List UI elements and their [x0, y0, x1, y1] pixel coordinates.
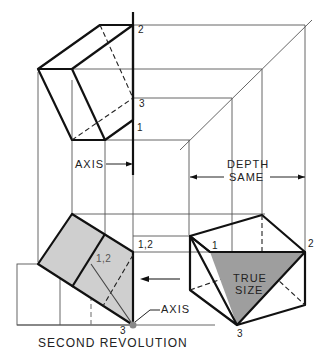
top-view	[38, 12, 133, 175]
front-point-3: 3	[120, 325, 126, 336]
side-point-2: 2	[308, 238, 314, 249]
revolution-diagram: 2 3 1 AXIS DEPTH SAME 1,2 1,2 3 AXIS	[0, 0, 322, 359]
top-point-2: 2	[138, 24, 144, 35]
front-view	[17, 214, 137, 329]
top-point-1: 1	[137, 122, 143, 133]
front-point-1-2-outer: 1,2	[138, 239, 153, 250]
size-label: SIZE	[235, 284, 263, 296]
same-label: SAME	[229, 171, 264, 183]
true-label: TRUE	[233, 272, 267, 284]
side-point-1: 1	[212, 240, 218, 251]
caption: SECOND REVOLUTION	[38, 336, 188, 350]
depth-label: DEPTH	[227, 158, 269, 170]
axis-label-bottom: AXIS	[161, 303, 190, 315]
front-point-1-2-inner: 1,2	[96, 253, 111, 264]
side-point-3: 3	[237, 328, 243, 339]
side-view	[190, 215, 305, 325]
axis-label-top: AXIS	[75, 158, 104, 170]
top-point-3: 3	[139, 98, 145, 109]
